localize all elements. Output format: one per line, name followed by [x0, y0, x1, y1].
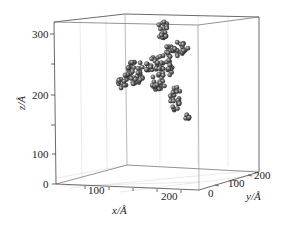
z-tick-0: 0 [43, 178, 49, 190]
atom-point [155, 83, 159, 87]
atom-point [173, 47, 177, 51]
atom-point [162, 84, 166, 88]
atom-point [177, 102, 181, 106]
atom-point [168, 54, 172, 58]
atom-point [136, 66, 140, 70]
atom-point [175, 85, 179, 89]
z-tick-100: 100 [32, 148, 49, 160]
atom-point [159, 33, 163, 37]
atom-point [171, 105, 175, 109]
atom-point [162, 20, 166, 24]
atom-point [181, 48, 185, 52]
z-axis-label: z/Å [15, 96, 27, 111]
atom-point [171, 90, 175, 94]
y-tick-100: 100 [228, 177, 245, 189]
3d-scatter-chart: 300 200 100 0 100 200 0 100 200 x/Å y/Å … [0, 0, 284, 225]
cluster-right-tip [184, 113, 192, 121]
atom-point [138, 77, 142, 81]
z-tick-labels: 300 200 100 0 [32, 28, 49, 190]
y-tick-200: 200 [254, 169, 271, 181]
atom-point [151, 75, 155, 79]
atom-point [181, 42, 185, 46]
x-axis-label: x/Å [111, 204, 127, 216]
atom-point [136, 71, 140, 75]
cluster-left-small [116, 77, 129, 90]
atom-point [122, 83, 126, 87]
atom-point [175, 54, 179, 58]
z-tick-200: 200 [32, 89, 49, 101]
atom-point [165, 26, 169, 30]
atom-point [158, 54, 162, 58]
atom-point [157, 66, 161, 70]
grid-lines [56, 15, 258, 192]
y-tick-0: 0 [208, 187, 214, 199]
atom-point [122, 79, 126, 83]
atom-point [123, 73, 127, 77]
atom-point [149, 65, 153, 69]
y-tick-labels: 0 100 200 [208, 169, 271, 199]
x-tick-100: 100 [88, 184, 105, 196]
atom-point [157, 72, 161, 76]
cluster-top-branch [157, 20, 169, 40]
y-axis-label: y/Å [245, 190, 261, 202]
atom-point [130, 60, 134, 64]
atom-point [168, 73, 172, 77]
atom-point [175, 106, 179, 110]
atom-point [157, 23, 161, 27]
z-tick-300: 300 [32, 28, 49, 40]
atom-point [166, 51, 170, 55]
atom-point [131, 82, 135, 86]
atom-point [171, 99, 175, 103]
atom-point [164, 45, 168, 49]
cluster-center-low [150, 79, 166, 92]
cluster-upper-right [164, 40, 190, 59]
atom-point [117, 78, 121, 82]
atom-point [186, 46, 190, 50]
atom-point [130, 69, 134, 73]
atom-point [187, 115, 191, 119]
atom-point [133, 77, 137, 81]
scatter-points [116, 20, 191, 121]
atom-point [129, 76, 133, 80]
atom-point [158, 27, 162, 31]
cluster-right-column [168, 85, 182, 112]
atom-point [126, 66, 130, 70]
atom-point [164, 34, 168, 38]
atom-point [166, 66, 170, 70]
atom-point [161, 73, 165, 77]
atom-point [138, 61, 142, 65]
atom-point [155, 60, 159, 64]
atom-point [144, 67, 148, 71]
x-tick-200: 200 [161, 190, 178, 202]
atom-point [144, 62, 148, 66]
atom-point [140, 65, 144, 69]
atom-point [161, 66, 165, 70]
